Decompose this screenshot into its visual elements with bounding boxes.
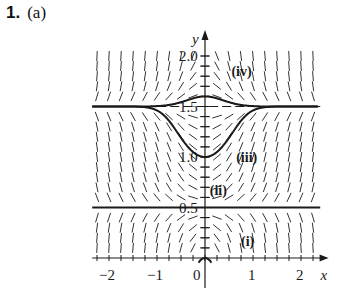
slope-segment <box>312 182 314 192</box>
slope-segment <box>157 51 158 61</box>
slope-segment <box>275 112 280 121</box>
slope-segment <box>167 152 171 161</box>
slope-segment <box>311 112 314 121</box>
slope-segment <box>238 214 245 221</box>
x-axis-label: x <box>320 267 328 283</box>
slope-segment <box>311 193 314 202</box>
slope-segment <box>132 71 133 81</box>
slope-segment <box>215 243 220 252</box>
slope-segment <box>265 51 266 61</box>
slope-segment <box>120 162 122 172</box>
slope-segment <box>226 153 231 162</box>
slope-segment <box>288 182 291 192</box>
slope-segment <box>299 213 302 222</box>
slope-segment <box>188 115 198 118</box>
slope-segment <box>264 142 266 152</box>
slope-segment <box>96 132 98 142</box>
slope-segment <box>121 51 122 61</box>
slope-segment <box>262 193 268 201</box>
slope-segment <box>276 233 277 243</box>
slope-segment <box>107 193 111 202</box>
slope-segment <box>178 123 185 130</box>
slope-segment <box>312 92 315 102</box>
slope-segment <box>238 93 245 100</box>
slope-segment <box>215 62 220 71</box>
slope-segment <box>96 81 97 91</box>
slope-segment <box>191 243 196 252</box>
slope-segment <box>190 72 196 80</box>
slope-segment <box>108 142 110 152</box>
slope-segment <box>155 132 158 141</box>
y-tick-label: 0.5 <box>179 200 198 216</box>
slope-segment <box>120 132 122 142</box>
slope-segment <box>263 92 268 101</box>
slope-segment <box>264 132 267 142</box>
slope-segment <box>226 163 231 172</box>
slope-segment <box>119 92 123 101</box>
slope-segment <box>300 152 301 162</box>
slope-segment <box>121 61 122 71</box>
slope-segment <box>96 172 98 182</box>
slope-segment <box>212 216 221 219</box>
slope-segment <box>108 182 110 192</box>
slope-segment <box>288 233 289 243</box>
slope-segment <box>177 114 186 119</box>
slope-segment <box>300 142 302 152</box>
slope-segment <box>299 92 302 101</box>
slope-segment <box>96 162 97 172</box>
slope-segment <box>188 216 197 219</box>
slope-segment <box>250 213 256 221</box>
slope-segment <box>178 173 184 181</box>
slope-segment <box>228 51 230 61</box>
slope-segment <box>120 81 122 91</box>
slope-segment <box>119 112 123 121</box>
slope-segment <box>238 183 243 192</box>
slope-segment <box>262 112 268 120</box>
slope-segment <box>144 132 147 142</box>
slope-segment <box>180 243 183 253</box>
slope-segment <box>132 132 134 142</box>
slope-segment <box>132 183 135 193</box>
slope-segment <box>276 122 279 132</box>
slope-segment <box>288 132 290 142</box>
slope-segment <box>142 112 148 120</box>
y-axis-arrow-icon <box>202 30 209 40</box>
slope-segment <box>239 223 243 232</box>
slope-segment <box>177 215 185 221</box>
slope-segment <box>156 243 157 253</box>
slope-segment <box>225 215 233 221</box>
slope-segment <box>144 223 146 233</box>
slope-segment <box>97 71 98 81</box>
slope-segment <box>96 152 97 162</box>
slope-segment <box>167 173 171 182</box>
slope-segment <box>154 194 160 202</box>
slope-segment <box>312 132 314 142</box>
slope-segment <box>263 122 266 131</box>
slope-segment <box>168 233 170 243</box>
slope-segment <box>288 81 290 91</box>
slope-segment <box>156 82 159 92</box>
slope-segment <box>109 243 110 253</box>
slope-segment <box>252 61 253 71</box>
slope-segment <box>119 213 123 222</box>
slope-segment <box>95 112 98 121</box>
slope-segment <box>312 142 313 152</box>
slope-segment <box>213 134 221 140</box>
slope-segment <box>251 183 255 192</box>
slope-segment <box>108 81 110 91</box>
slope-segment <box>156 233 158 243</box>
slope-segment <box>109 233 110 243</box>
slope-segment <box>214 72 220 80</box>
slope-segment <box>167 142 171 151</box>
slope-segment <box>312 81 313 91</box>
slope-segment <box>213 174 221 180</box>
slope-segment <box>97 243 98 253</box>
slope-segment <box>144 81 146 91</box>
slope-segment <box>288 152 290 162</box>
slope-segment <box>240 51 241 61</box>
slope-segment <box>264 223 266 233</box>
slope-segment <box>300 81 302 91</box>
slope-segment <box>250 113 256 121</box>
slope-segment <box>178 82 183 91</box>
slope-segment <box>312 152 313 162</box>
